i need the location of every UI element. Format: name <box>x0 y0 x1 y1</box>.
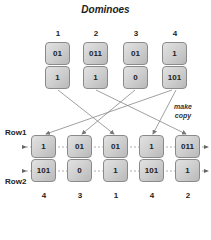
make-copy-annotation: make copy <box>168 102 198 120</box>
domino-top-half: 01 <box>45 42 70 65</box>
domino-bottom-half: 1 <box>103 159 128 182</box>
domino-bottom-half: 1 <box>45 66 70 89</box>
domino-bottom-half: 0 <box>123 66 148 89</box>
top-domino-number: 4 <box>162 29 188 38</box>
domino-top-half: 1 <box>162 42 187 65</box>
domino-bottom-half: 101 <box>31 159 56 182</box>
bottom-domino-1: 1 101 <box>31 135 56 183</box>
bottom-domino-3: 01 1 <box>103 135 128 183</box>
domino-top-half: 01 <box>67 135 92 158</box>
bottom-domino-number: 1 <box>103 191 129 200</box>
domino-bottom-half: 1 <box>175 159 200 182</box>
bottom-domino-5: 011 1 <box>175 135 200 183</box>
top-domino-number: 2 <box>83 29 109 38</box>
domino-bottom-half: 0 <box>67 159 92 182</box>
top-domino-2: 011 1 <box>83 42 108 90</box>
bottom-domino-number: 2 <box>175 191 201 200</box>
domino-top-half: 1 <box>31 135 56 158</box>
bottom-domino-number: 4 <box>139 191 165 200</box>
domino-bottom-half: 101 <box>162 66 187 89</box>
annotation-line-2: copy <box>168 111 198 120</box>
row1-end-arrow-icon <box>204 145 209 149</box>
domino-top-half: 01 <box>103 135 128 158</box>
top-domino-number: 1 <box>45 29 71 38</box>
row1-label: Row1 <box>5 128 26 137</box>
domino-top-half: 011 <box>175 135 200 158</box>
top-domino-3: 01 0 <box>123 42 148 90</box>
bottom-domino-number: 4 <box>31 191 57 200</box>
row2-start-arrow-icon <box>22 169 27 173</box>
top-domino-1: 01 1 <box>45 42 70 90</box>
bottom-domino-4: 1 101 <box>139 135 164 183</box>
top-domino-number: 3 <box>123 29 149 38</box>
domino-top-half: 01 <box>123 42 148 65</box>
row2-end-arrow-icon <box>204 169 209 173</box>
domino-top-half: 011 <box>83 42 108 65</box>
connection-1-to-3 <box>58 90 114 134</box>
domino-top-half: 1 <box>139 135 164 158</box>
top-domino-4: 1 101 <box>162 42 187 90</box>
row1-start-arrow-icon <box>22 145 27 149</box>
bottom-domino-2: 01 0 <box>67 135 92 183</box>
row2-label: Row2 <box>5 177 26 186</box>
domino-bottom-half: 101 <box>139 159 164 182</box>
domino-bottom-half: 1 <box>83 66 108 89</box>
bottom-domino-number: 3 <box>67 191 93 200</box>
annotation-line-1: make <box>168 102 198 111</box>
